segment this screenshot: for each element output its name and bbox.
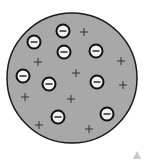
triangle-marker-icon (133, 151, 141, 159)
plum-pudding-atom-diagram (0, 0, 147, 162)
